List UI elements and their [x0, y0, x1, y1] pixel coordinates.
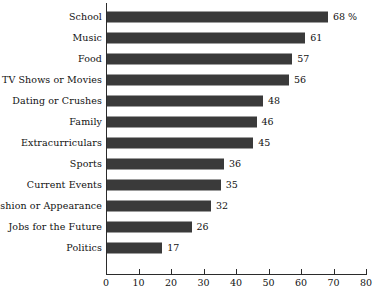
x-axis-tick [301, 269, 302, 274]
bar-row: Dating or Crushes48 [0, 90, 379, 111]
bar [107, 200, 211, 211]
x-axis-tick-label: 50 [262, 278, 274, 288]
category-label: Dating or Crushes [12, 96, 102, 106]
x-axis-tick-label: 60 [295, 278, 307, 288]
plot-area: School68 %Music61Food57TV Shows or Movie… [0, 0, 379, 294]
x-axis-tick-label: 0 [103, 278, 109, 288]
bar-value-label: 32 [216, 201, 228, 211]
bar [107, 158, 224, 169]
bar [107, 179, 221, 190]
x-axis-tick [171, 269, 172, 274]
bar-value-label: 45 [258, 138, 270, 148]
bar-row: TV Shows or Movies56 [0, 69, 379, 90]
bar [107, 221, 192, 232]
x-axis-tick [269, 269, 270, 274]
bar-value-label: 17 [167, 243, 179, 253]
x-axis-tick [106, 269, 107, 274]
bar [107, 74, 289, 85]
bar-value-label: 68 % [333, 12, 357, 22]
category-label: TV Shows or Movies [2, 75, 102, 85]
x-axis-tick-label: 30 [197, 278, 209, 288]
category-label: Jobs for the Future [8, 222, 102, 232]
category-label: Music [72, 33, 102, 43]
bar [107, 137, 253, 148]
bar-value-label: 57 [297, 54, 309, 64]
bar-value-label: 48 [268, 96, 280, 106]
bar-value-label: 61 [310, 33, 322, 43]
bar-row: Music61 [0, 27, 379, 48]
category-label: Current Events [27, 180, 102, 190]
bar-row: Fashion or Appearance32 [0, 195, 379, 216]
x-axis-tick [236, 269, 237, 274]
category-label: Fashion or Appearance [0, 201, 102, 211]
x-axis-line [106, 274, 367, 275]
bar-row: Extracurriculars45 [0, 132, 379, 153]
category-label: School [69, 12, 102, 22]
bar-value-label: 26 [197, 222, 209, 232]
x-axis-tick [366, 269, 367, 274]
bar-row: Food57 [0, 48, 379, 69]
bar-row: Family46 [0, 111, 379, 132]
x-axis-tick [334, 269, 335, 274]
category-label: Politics [66, 243, 102, 253]
category-label: Family [69, 117, 102, 127]
bar [107, 32, 305, 43]
x-axis-tick-label: 80 [360, 278, 372, 288]
bar [107, 242, 162, 253]
bar-chart: School68 %Music61Food57TV Shows or Movie… [0, 0, 379, 294]
bar [107, 53, 292, 64]
bar-value-label: 46 [262, 117, 274, 127]
category-label: Sports [70, 159, 102, 169]
x-axis-tick-label: 20 [165, 278, 177, 288]
bar-row: School68 % [0, 6, 379, 27]
bar-value-label: 36 [229, 159, 241, 169]
bar-value-label: 56 [294, 75, 306, 85]
bar-row: Current Events35 [0, 174, 379, 195]
bar-row: Jobs for the Future26 [0, 216, 379, 237]
bar [107, 11, 328, 22]
category-label: Extracurriculars [21, 138, 102, 148]
x-axis-tick-label: 10 [132, 278, 144, 288]
x-axis-tick [139, 269, 140, 274]
x-axis-tick-label: 70 [327, 278, 339, 288]
bar [107, 116, 257, 127]
x-axis-tick [204, 269, 205, 274]
bar-value-label: 35 [226, 180, 238, 190]
bar-row: Politics17 [0, 237, 379, 258]
category-label: Food [78, 54, 102, 64]
x-axis-tick-label: 40 [230, 278, 242, 288]
bar [107, 95, 263, 106]
bar-row: Sports36 [0, 153, 379, 174]
